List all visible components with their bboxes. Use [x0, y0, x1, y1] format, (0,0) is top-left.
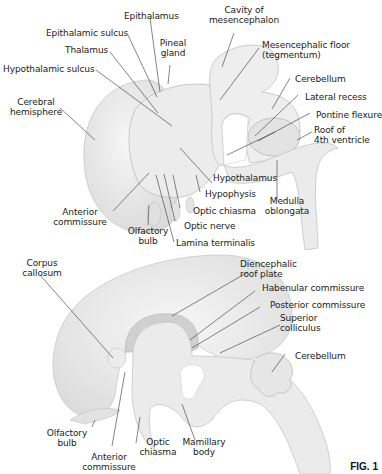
label-optic-nerve: Optic nerve [184, 221, 235, 231]
label-mamillary-body: Mamillary body [180, 437, 228, 457]
label-medulla-oblongata: Medulla oblongata [262, 196, 312, 216]
label-medulla-line1: Medulla [262, 196, 312, 206]
label-pontine-flexure: Pontine flexure [316, 110, 382, 120]
label-roof-line2: 4th ventricle [314, 135, 370, 145]
label-anterior-commissure-top-line2: commissure [52, 217, 108, 227]
label-corpus-callosum-line2: callosum [18, 268, 66, 278]
label-olfactory-bulb-bottom-line1: Olfactory [44, 428, 90, 438]
label-cavity-of-mesencephalon: Cavity of mesencephalon [206, 5, 282, 25]
label-posterior-commissure: Posterior commissure [270, 300, 365, 310]
label-roof-line1: Roof of [314, 125, 370, 135]
label-anterior-commissure-top-line1: Anterior [52, 207, 108, 217]
label-lamina-terminalis: Lamina terminalis [176, 238, 255, 248]
label-mamillary-body-line1: Mamillary [180, 437, 228, 447]
label-epithalamic-sulcus: Epithalamic sulcus [46, 28, 128, 38]
label-corpus-callosum-line1: Corpus [18, 258, 66, 268]
label-cerebellum-top: Cerebellum [295, 74, 346, 84]
label-optic-chiasma-top: Optic chiasma [193, 206, 256, 216]
label-cerebellum-bottom: Cerebellum [295, 351, 346, 361]
label-optic-chiasma-bottom: Optic chiasma [138, 437, 178, 457]
label-cerebral-hemisphere-line1: Cerebral [8, 97, 64, 107]
label-medulla-line2: oblongata [262, 206, 312, 216]
label-mesencephalic-floor-line2: (tegmentum) [262, 50, 350, 60]
label-hypothalamic-sulcus: Hypothalamic sulcus [3, 64, 95, 74]
label-corpus-callosum: Corpus callosum [18, 258, 66, 278]
label-anterior-commissure-bottom: Anterior commissure [80, 452, 138, 472]
label-cavity-line2: mesencephalon [206, 15, 282, 25]
label-hypophysis: Hypophysis [205, 189, 256, 199]
label-superior-colliculus: Superior colliculus [280, 313, 321, 333]
label-olfactory-bulb-bottom-line2: bulb [44, 438, 90, 448]
label-olfactory-bulb-top-line2: bulb [126, 236, 170, 246]
label-anterior-commissure-top: Anterior commissure [52, 207, 108, 227]
label-cavity-line1: Cavity of [206, 5, 282, 15]
label-olfactory-bulb-bottom: Olfactory bulb [44, 428, 90, 448]
label-diencephalic-roof-plate: Diencephalic roof plate [240, 259, 297, 279]
label-optic-chiasma-bottom-line1: Optic [138, 437, 178, 447]
label-superior-colliculus-line2: colliculus [280, 323, 321, 333]
label-habenular-commissure: Habenular commissure [262, 283, 364, 293]
label-roof-4th-ventricle: Roof of 4th ventricle [314, 125, 370, 145]
label-thalamus: Thalamus [65, 45, 108, 55]
label-cerebral-hemisphere-line2: hemisphere [8, 107, 64, 117]
label-diencephalic-line2: roof plate [240, 269, 297, 279]
label-diencephalic-line1: Diencephalic [240, 259, 297, 269]
label-mesencephalic-floor-line1: Mesencephalic floor [262, 40, 350, 50]
label-superior-colliculus-line1: Superior [280, 313, 321, 323]
label-cerebral-hemisphere: Cerebral hemisphere [8, 97, 64, 117]
label-pineal-gland: Pineal gland [158, 38, 188, 58]
figure-number: FIG. 1 [350, 461, 378, 472]
label-optic-chiasma-bottom-line2: chiasma [138, 447, 178, 457]
label-pineal-gland-line1: Pineal [158, 38, 188, 48]
label-mesencephalic-floor: Mesencephalic floor (tegmentum) [262, 40, 350, 60]
label-pineal-gland-line2: gland [158, 48, 188, 58]
label-mamillary-body-line2: body [180, 447, 228, 457]
label-hypothalamus: Hypothalamus [213, 173, 277, 183]
label-anterior-commissure-bottom-line2: commissure [80, 462, 138, 472]
label-epithalamus: Epithalamus [124, 11, 179, 21]
label-lateral-recess: Lateral recess [305, 92, 367, 102]
label-anterior-commissure-bottom-line1: Anterior [80, 452, 138, 462]
label-olfactory-bulb-top-line1: Olfactory [126, 226, 170, 236]
label-olfactory-bulb-top: Olfactory bulb [126, 226, 170, 246]
